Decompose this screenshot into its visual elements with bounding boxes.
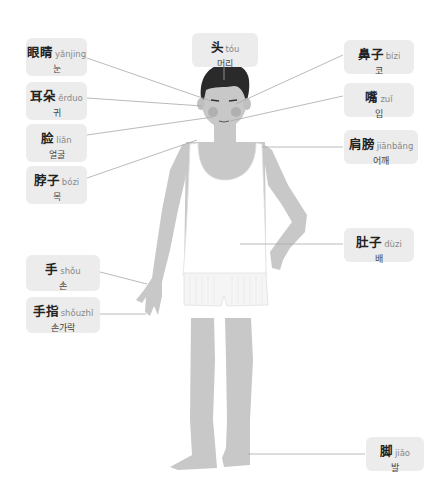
- label-pinyin: tóu: [226, 44, 240, 54]
- label-zh: 眼睛: [27, 45, 53, 60]
- label-zh: 肚子: [356, 235, 382, 250]
- label-pinyin: shǒu: [60, 266, 80, 276]
- left-eye: [211, 100, 219, 101]
- left-arm: [136, 143, 190, 316]
- shorts: [184, 273, 268, 306]
- label-ko: 머리: [192, 57, 258, 70]
- label-zh: 脚: [380, 444, 393, 459]
- leader-line-ears: [87, 98, 202, 106]
- label-ko: 눈: [26, 62, 87, 75]
- label-pinyin: bózi: [62, 177, 79, 187]
- label-face: 脸liǎn 얼굴: [26, 124, 87, 162]
- left-cheek: [208, 107, 218, 117]
- leader-line-face: [87, 117, 213, 135]
- label-ko: 귀: [26, 106, 87, 119]
- label-zh: 头: [211, 40, 224, 55]
- label-belly: 肚子dùzi 배: [344, 228, 414, 262]
- label-ko: 입: [344, 107, 414, 120]
- right-ear: [243, 98, 251, 110]
- label-ko: 얼굴: [26, 148, 87, 161]
- label-ko: 목: [26, 190, 87, 203]
- right-cheek: [231, 107, 241, 117]
- label-ko: 손: [26, 279, 100, 292]
- label-pinyin: bízi: [386, 51, 401, 61]
- label-pinyin: jiānbǎng: [377, 141, 414, 151]
- label-foot: 脚jiǎo 발: [366, 437, 424, 471]
- label-pinyin: jiǎo: [395, 448, 410, 458]
- label-zh: 肩膀: [349, 137, 375, 152]
- label-pinyin: zuǐ: [380, 94, 392, 104]
- right-eye: [229, 100, 237, 101]
- label-mouth: 嘴zuǐ 입: [344, 83, 414, 117]
- label-shoulder: 肩膀jiānbǎng 어깨: [344, 130, 418, 164]
- label-ko: 코: [344, 64, 414, 77]
- leader-line-hand: [100, 272, 147, 284]
- left-leg: [170, 318, 217, 470]
- label-ko: 손가락: [26, 321, 100, 334]
- label-pinyin: shǒuzhǐ: [61, 308, 94, 318]
- label-pinyin: ěrduo: [58, 93, 83, 103]
- label-zh: 鼻子: [358, 47, 384, 62]
- label-hand: 手shǒu 손: [26, 255, 100, 291]
- label-zh: 脖子: [34, 173, 60, 188]
- label-zh: 耳朵: [30, 89, 56, 104]
- label-zh: 手指: [33, 304, 59, 319]
- label-pinyin: yǎnjing: [55, 49, 86, 59]
- label-neck: 脖子bózi 목: [26, 166, 87, 204]
- label-zh: 脸: [41, 131, 54, 146]
- label-eyes: 眼睛yǎnjing 눈: [26, 38, 87, 76]
- label-pinyin: dùzi: [384, 239, 402, 249]
- label-ko: 발: [366, 461, 424, 474]
- label-zh: 手: [45, 262, 58, 277]
- label-finger: 手指shǒuzhǐ 손가락: [26, 297, 100, 333]
- right-arm: [262, 143, 307, 270]
- label-zh: 嘴: [365, 90, 378, 105]
- label-pinyin: liǎn: [56, 135, 71, 145]
- left-ear: [197, 98, 205, 110]
- label-ears: 耳朵ěrduo 귀: [26, 82, 87, 120]
- label-nose: 鼻子bízi 코: [344, 40, 414, 74]
- right-leg: [222, 318, 253, 467]
- label-head: 头tóu 머리: [192, 33, 258, 67]
- label-ko: 어깨: [344, 154, 418, 167]
- label-ko: 배: [344, 252, 414, 265]
